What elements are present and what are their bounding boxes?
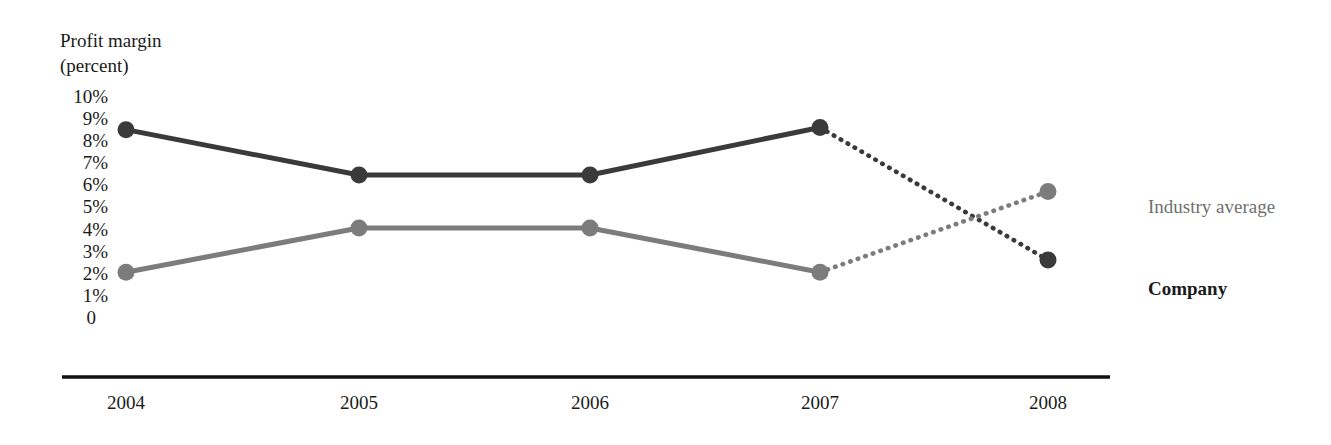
data-point-2008 <box>1040 252 1057 269</box>
data-point-2005 <box>351 219 368 236</box>
data-point-2007 <box>812 264 829 281</box>
x-tick-2008: 2008 <box>1029 390 1067 416</box>
series-line-solid <box>126 127 820 175</box>
data-point-2007 <box>812 119 829 136</box>
series-industry-average <box>118 183 1057 281</box>
data-point-2005 <box>351 166 368 183</box>
data-point-2006 <box>582 219 599 236</box>
x-tick-2004: 2004 <box>107 390 145 416</box>
x-tick-2007: 2007 <box>801 390 839 416</box>
data-point-2004 <box>118 121 135 138</box>
series-line-projected <box>820 192 1048 273</box>
x-axis-tick-labels: 2004 2005 2006 2007 2008 <box>0 390 1331 420</box>
series-line-solid <box>126 228 820 272</box>
series-line-projected <box>820 127 1048 260</box>
plot-area <box>0 0 1331 445</box>
legend-label-industry-average: Industry average <box>1148 196 1275 218</box>
data-point-2004 <box>118 264 135 281</box>
x-tick-2006: 2006 <box>571 390 609 416</box>
data-point-2006 <box>582 166 599 183</box>
legend-label-company: Company <box>1148 278 1227 300</box>
data-point-2008 <box>1040 183 1057 200</box>
x-tick-2005: 2005 <box>340 390 378 416</box>
profit-margin-line-chart: Profit margin (percent) 10% 9% 8% 7% 6% … <box>0 0 1331 445</box>
